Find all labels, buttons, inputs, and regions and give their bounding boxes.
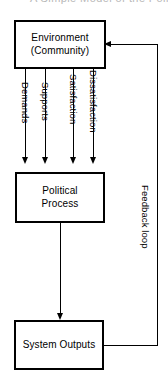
flow-arrowhead-demands <box>22 157 28 164</box>
flow-arrowhead-process-to-outputs <box>57 313 63 320</box>
flow-arrowhead-dissatisfaction <box>90 157 96 164</box>
node-political-process: Political Process <box>15 172 105 223</box>
flow-label-demands: Demands <box>21 82 31 123</box>
clipped-title-artifact: A Simple Model of the Political System <box>0 0 168 12</box>
political-system-diagram: A Simple Model of the Political System E… <box>0 0 168 381</box>
clipped-title-text: A Simple Model of the Political System <box>30 0 168 4</box>
feedback-segment-right <box>157 44 158 346</box>
feedback-loop-label: Feedback loop <box>141 185 151 249</box>
flow-label-supports: Supports <box>41 82 51 121</box>
feedback-segment-bottom <box>104 345 158 346</box>
flow-line-process-to-outputs <box>60 223 61 313</box>
node-environment-label: Environment (Community) <box>31 32 89 57</box>
flow-label-satisfaction: Satisfaction <box>69 74 79 124</box>
flow-arrowhead-satisfaction <box>70 157 76 164</box>
feedback-arrowhead <box>104 41 111 47</box>
node-system-outputs: System Outputs <box>14 320 104 370</box>
flow-arrowhead-supports <box>42 157 48 164</box>
feedback-segment-top <box>110 44 158 45</box>
node-environment: Environment (Community) <box>14 20 106 69</box>
node-system-outputs-label: System Outputs <box>23 339 96 352</box>
node-political-process-label: Political Process <box>42 185 79 210</box>
flow-label-dissatisfaction: Dissatisfaction <box>89 70 99 133</box>
